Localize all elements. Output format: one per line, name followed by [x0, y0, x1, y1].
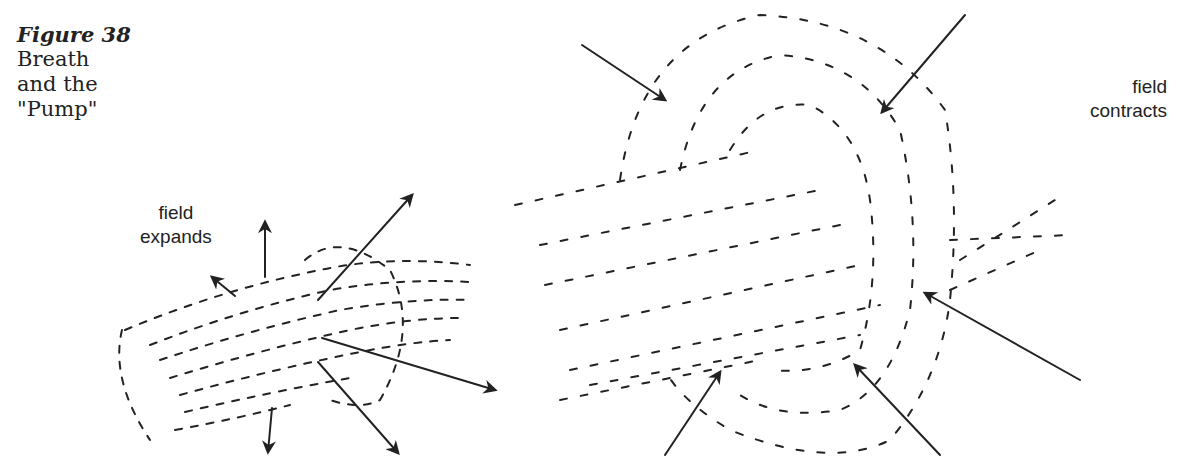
expanding-field-diagram: [119, 195, 495, 453]
figure-page: Figure 38 Breath and the "Pump" field ex…: [0, 0, 1187, 465]
arrow-out-s: [268, 408, 272, 452]
arrow-out-e: [322, 338, 495, 390]
arrow-in-se: [855, 365, 940, 455]
diagram-canvas: [0, 0, 1187, 465]
arrow-in-nw: [582, 45, 665, 100]
arrow-out-se: [318, 362, 398, 453]
arrow-in-e: [925, 293, 1080, 380]
arrow-out-nw: [212, 277, 235, 296]
arrow-in-ne: [882, 15, 965, 112]
contracting-field-diagram: [515, 15, 1080, 455]
